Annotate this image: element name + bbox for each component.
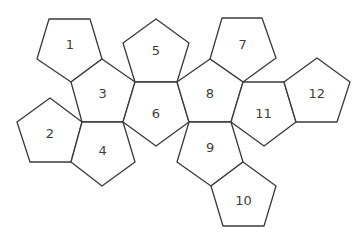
face-label-12: 12 [309, 86, 326, 101]
face-5: 5 [123, 19, 189, 82]
face-12: 12 [284, 58, 350, 122]
face-label-3: 3 [98, 86, 106, 101]
face-label-11: 11 [255, 106, 272, 121]
face-4: 4 [71, 122, 135, 186]
face-label-5: 5 [152, 43, 160, 58]
face-label-2: 2 [46, 126, 54, 141]
face-2: 2 [17, 98, 82, 162]
face-label-10: 10 [235, 193, 252, 208]
face-label-6: 6 [152, 106, 160, 121]
face-label-1: 1 [66, 37, 74, 52]
face-label-7: 7 [238, 37, 246, 52]
face-label-4: 4 [98, 143, 106, 158]
face-label-9: 9 [206, 140, 214, 155]
face-label-8: 8 [206, 86, 214, 101]
face-6: 6 [123, 82, 189, 146]
dodecahedron-net: 123456789101112 [0, 0, 361, 244]
